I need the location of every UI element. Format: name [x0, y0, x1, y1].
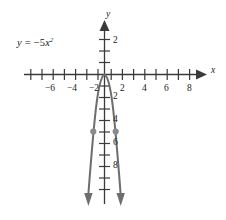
x-tick-label: −4: [67, 84, 77, 94]
y-tick-label: 6: [113, 138, 118, 148]
marked-point: [90, 128, 96, 134]
y-tick-label: 2: [113, 92, 118, 102]
x-tick-label: 4: [142, 84, 147, 94]
equation-annotation: y = −5x2: [17, 38, 54, 49]
y-tick-label: 2: [113, 36, 118, 46]
right-branch-arrowhead: [117, 193, 125, 206]
y-axis-name: y: [106, 10, 110, 20]
marked-point: [113, 128, 119, 134]
x-tick-label: 8: [187, 84, 192, 94]
x-tick-label: −2: [89, 84, 99, 94]
y-axis-arrowhead: [100, 20, 110, 31]
y-tick-label: 4: [113, 115, 118, 125]
x-tick-label: 6: [164, 84, 169, 94]
equation-exponent: 2: [50, 36, 53, 43]
graph-figure: y = −5x2 x y −6 −4 −2 2 4 6 8 2 2 4 6 8: [0, 0, 226, 220]
x-tick-label: −6: [45, 84, 55, 94]
equation-equals: =: [25, 37, 31, 48]
x-tick-label: 2: [120, 84, 125, 94]
y-tick-label: 8: [113, 161, 118, 171]
parabola-plot: [0, 0, 226, 220]
equation-lhs: y: [17, 37, 22, 48]
x-axis-arrowhead: [196, 70, 207, 80]
left-branch-arrowhead: [84, 193, 92, 206]
x-axis-name: x: [211, 66, 215, 76]
